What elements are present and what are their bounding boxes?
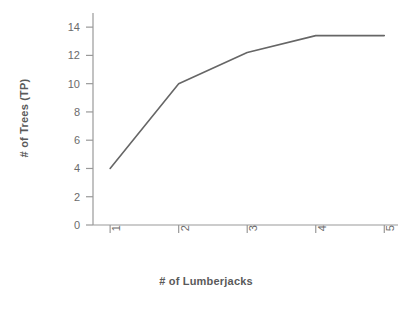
y-tick-label-4: 4: [54, 162, 80, 174]
y-tick-label-0: 0: [54, 219, 80, 231]
x-tick-label-2: 2: [179, 225, 191, 251]
data-series-line: [110, 36, 384, 169]
y-tick-label-10: 10: [54, 78, 80, 90]
x-tick-label-5: 5: [384, 225, 396, 251]
y-axis-title: # of Trees (TP): [18, 48, 30, 188]
x-tick-label-3: 3: [247, 225, 259, 251]
y-tick-label-14: 14: [54, 21, 80, 33]
x-tick-label-1: 1: [110, 225, 122, 251]
plot-area: [0, 0, 412, 310]
y-tick-label-8: 8: [54, 106, 80, 118]
y-tick-label-12: 12: [54, 49, 80, 61]
y-tick-label-6: 6: [54, 134, 80, 146]
y-tick-label-2: 2: [54, 191, 80, 203]
line-chart: 14 12 10 8 6 4 2 0 1 2 3 4 5 # of Lumber…: [0, 0, 412, 310]
x-tick-label-4: 4: [316, 225, 328, 251]
y-axis-ticks: [86, 27, 93, 225]
x-axis-title: # of Lumberjacks: [0, 275, 412, 287]
